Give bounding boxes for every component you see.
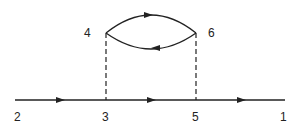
loop-arc-upper [106,15,196,33]
vertex-label-1: 1 [280,110,287,124]
vertex-label-5: 5 [192,110,199,124]
vertex-label-4: 4 [84,26,91,40]
loop-arc-lower [106,33,196,49]
vertex-label-3: 3 [102,110,109,124]
vertex-label-2: 2 [14,110,21,124]
feynman-diagram: 2 3 5 1 4 6 [0,0,302,131]
arrow-right-icon [56,97,65,103]
arrow-left-icon [151,45,160,51]
arrow-right-icon [144,12,153,18]
arrow-right-icon [237,97,246,103]
arrow-right-icon [147,97,156,103]
vertex-label-6: 6 [208,26,215,40]
